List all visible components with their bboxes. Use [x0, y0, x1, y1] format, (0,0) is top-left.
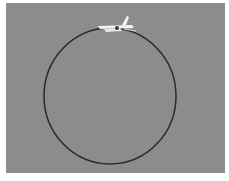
- airplane-icon: [98, 16, 136, 32]
- scene-graphic: [0, 0, 229, 181]
- circular-flight-path: [44, 28, 176, 164]
